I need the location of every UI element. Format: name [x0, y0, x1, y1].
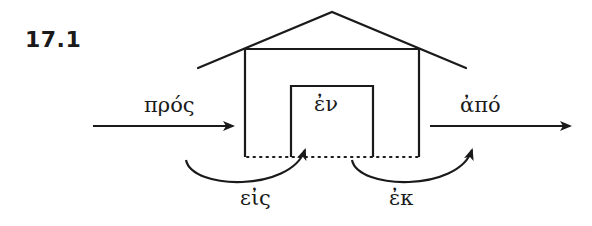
preposition-diagram: 17.1 πρός ἐν ἀπό εἰς ἐκ: [0, 0, 592, 226]
label-ek: ἐκ: [389, 186, 413, 210]
ek-curved-arrow: [352, 150, 472, 182]
label-pros: πρός: [144, 93, 195, 117]
house-diagram-graphic: [0, 0, 592, 226]
label-eis: εἰς: [240, 186, 271, 210]
label-en: ἐν: [314, 92, 338, 116]
label-apo: ἀπό: [460, 93, 501, 117]
roof: [198, 12, 466, 68]
